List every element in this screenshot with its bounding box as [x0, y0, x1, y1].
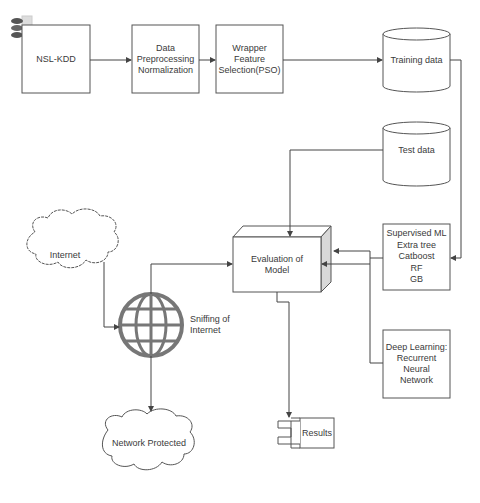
test-data-label: Test data — [383, 134, 450, 166]
results-label: Results — [300, 418, 334, 448]
nsl-kdd-label: NSL-KDD — [22, 25, 90, 93]
supervised-ml-label: Supervised ML Extra tree Catboost RF GB — [383, 224, 450, 290]
internet-label: Internet — [40, 250, 90, 264]
deep-learning-label: Deep Learning: Recurrent Neural Network — [383, 330, 450, 398]
evaluation-label: Evaluation of Model — [233, 237, 321, 292]
training-data-label: Training data — [383, 40, 450, 80]
network-protected-label: Network Protected — [102, 433, 196, 453]
sniffing-label: Sniffing of Internet — [190, 312, 250, 338]
globe-icon — [120, 294, 182, 356]
feature-selection-label: Wrapper Feature Selection(PSO) — [216, 25, 283, 93]
preprocessing-label: Data Preprocessing Normalization — [132, 25, 199, 93]
